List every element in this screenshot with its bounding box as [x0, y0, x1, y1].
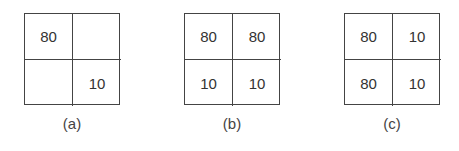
panel-b: 80 80 10 10: [184, 13, 280, 105]
grid-c: 80 10 80 10: [344, 13, 440, 105]
cell-a-top-left: 80: [25, 14, 73, 60]
cell-c-top-left: 80: [345, 14, 393, 60]
caption-a: (a): [24, 115, 120, 132]
cell-c-bottom-right: 10: [393, 60, 441, 106]
cell-b-top-right: 80: [233, 14, 281, 60]
panel-a: 80 10: [24, 13, 120, 105]
cell-b-bottom-right: 10: [233, 60, 281, 106]
cell-b-bottom-left: 10: [185, 60, 233, 106]
cell-a-top-right: [73, 14, 121, 60]
caption-c: (c): [344, 115, 440, 132]
cell-c-top-right: 10: [393, 14, 441, 60]
grid-b: 80 80 10 10: [184, 13, 280, 105]
cell-b-top-left: 80: [185, 14, 233, 60]
panel-c: 80 10 80 10: [344, 13, 440, 105]
caption-b: (b): [184, 115, 280, 132]
grid-a: 80 10: [24, 13, 120, 105]
cell-a-bottom-right: 10: [73, 60, 121, 106]
cell-a-bottom-left: [25, 60, 73, 106]
cell-c-bottom-left: 80: [345, 60, 393, 106]
